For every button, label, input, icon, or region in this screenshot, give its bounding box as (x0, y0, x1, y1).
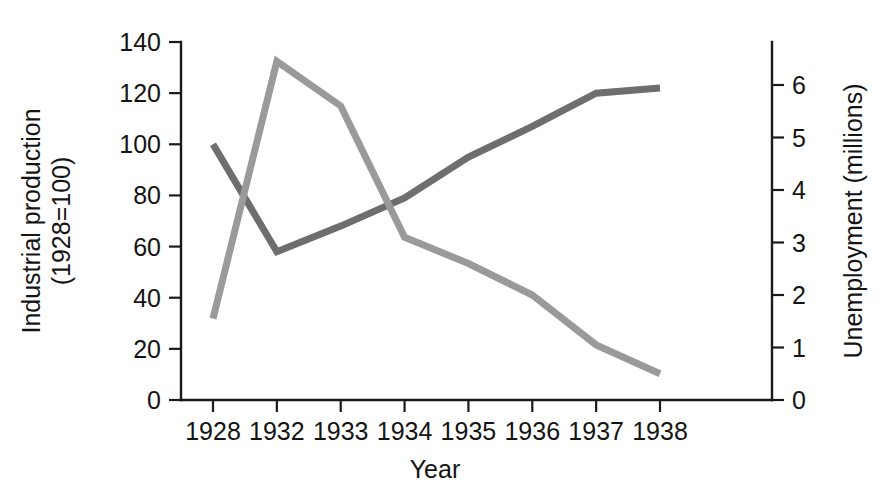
x-tick-label: 1932 (249, 417, 305, 445)
left-tick-label: 0 (147, 386, 161, 414)
x-tick-label: 1936 (504, 417, 560, 445)
x-tick-label: 1935 (441, 417, 497, 445)
series-line-2 (213, 61, 660, 373)
left-axis-title-line1: Industrial production (17, 108, 45, 333)
right-tick-label: 4 (792, 176, 806, 204)
left-tick-label: 140 (119, 28, 161, 56)
x-tick-label: 1938 (632, 417, 688, 445)
line-chart: 020406080100120140 0123456 1928193219331… (0, 0, 884, 502)
x-axis-ticks: 19281932193319341935193619371938 (185, 400, 688, 445)
right-tick-label: 3 (792, 229, 806, 257)
left-tick-label: 120 (119, 79, 161, 107)
series-line-1 (213, 88, 660, 252)
x-tick-label: 1933 (313, 417, 369, 445)
series-group (213, 61, 660, 373)
right-axis-ticks: 0123456 (772, 71, 806, 414)
left-tick-label: 20 (133, 335, 161, 363)
left-tick-label: 60 (133, 233, 161, 261)
right-tick-label: 6 (792, 71, 806, 99)
left-tick-label: 40 (133, 284, 161, 312)
x-tick-label: 1937 (568, 417, 624, 445)
right-tick-label: 0 (792, 386, 806, 414)
x-tick-label: 1928 (185, 417, 241, 445)
x-axis-title: Year (410, 455, 461, 483)
left-tick-label: 100 (119, 130, 161, 158)
chart-container: 020406080100120140 0123456 1928193219331… (0, 0, 884, 502)
left-axis-title-line2: (1928=100) (47, 157, 75, 286)
left-axis-ticks: 020406080100120140 (119, 28, 181, 414)
right-tick-label: 2 (792, 281, 806, 309)
left-tick-label: 80 (133, 181, 161, 209)
right-axis-title: Unemployment (millions) (839, 83, 867, 358)
right-tick-label: 5 (792, 124, 806, 152)
right-tick-label: 1 (792, 334, 806, 362)
x-tick-label: 1934 (377, 417, 433, 445)
